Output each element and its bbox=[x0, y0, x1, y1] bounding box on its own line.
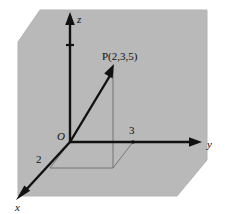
x-axis-label: x bbox=[14, 201, 20, 213]
z-axis-label: z bbox=[76, 13, 82, 25]
y-axis-label: y bbox=[206, 138, 212, 150]
point-label-p: P(2,3,5) bbox=[102, 50, 138, 63]
tick-label-x-2: 2 bbox=[36, 153, 42, 165]
tick-label-y-3: 3 bbox=[129, 124, 135, 136]
figure-container: z y x O P(2,3,5) 3 2 bbox=[0, 0, 225, 214]
coordinate-system-figure: z y x O P(2,3,5) 3 2 bbox=[0, 0, 225, 214]
origin-label: O bbox=[57, 130, 65, 142]
